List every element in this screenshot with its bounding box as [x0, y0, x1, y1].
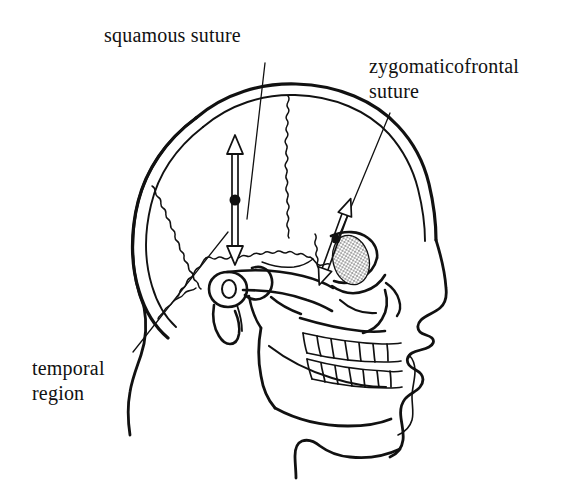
mandible-ramus [259, 328, 275, 408]
external-auditory-meatus-outer [209, 272, 247, 307]
squamous-suture [206, 251, 329, 265]
label-temporal-region: temporal region [32, 356, 105, 406]
mastoid-process [213, 305, 239, 344]
nasal-aperture [386, 283, 400, 316]
occipitomastoid-suture [158, 288, 196, 319]
condyle-neck [249, 296, 261, 328]
squamous-suture-marker-dot [230, 195, 241, 206]
mandibular-condyle [245, 267, 272, 300]
mandible-coronoid [271, 297, 301, 314]
upper-teeth-row [303, 333, 401, 362]
facial-soft-tissue-profile [390, 240, 446, 457]
mandible-alveolar-border [269, 346, 386, 387]
zygomaticofrontal-suture-marker-dot [332, 235, 341, 244]
label-zygomaticofrontal-suture: zygomaticofrontal suture [369, 54, 519, 104]
coronal-suture [285, 96, 289, 238]
maxilla-anterior [363, 290, 387, 333]
cranial-vault-outline [132, 84, 436, 338]
ear-canal-opening [222, 280, 236, 298]
figure-canvas: squamous suture zygomaticofrontal suture… [0, 0, 586, 489]
label-squamous-suture: squamous suture [104, 23, 241, 48]
neck-posterior-soft-tissue [128, 307, 146, 435]
mandible-body [275, 408, 391, 426]
scalp-soft-tissue [133, 118, 196, 307]
submental-soft-tissue [295, 440, 400, 478]
infraorbital-region [340, 300, 376, 313]
temporal-line [262, 259, 313, 267]
